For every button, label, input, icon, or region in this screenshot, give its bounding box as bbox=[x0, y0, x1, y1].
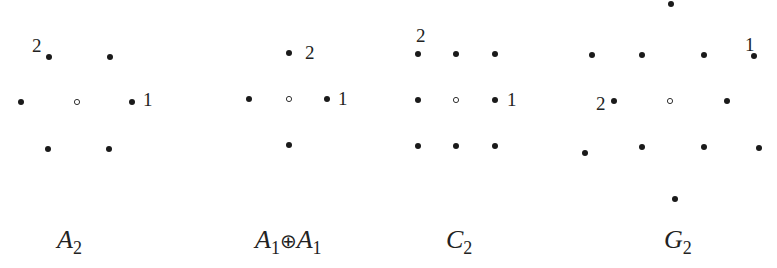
root-point bbox=[492, 97, 498, 103]
diagram-a1-plus-a1: 21A1⊕A1 bbox=[246, 42, 348, 258]
simple-root-label: 2 bbox=[32, 35, 42, 56]
simple-root-label: 1 bbox=[338, 88, 348, 109]
root-point bbox=[639, 52, 645, 58]
diagram-c2: 21C2 bbox=[415, 25, 517, 258]
root-point bbox=[611, 98, 617, 104]
root-point bbox=[582, 150, 588, 156]
simple-root-label: 2 bbox=[596, 93, 606, 114]
root-point bbox=[453, 51, 459, 57]
root-point bbox=[415, 97, 421, 103]
root-point bbox=[106, 146, 112, 152]
root-point bbox=[672, 196, 678, 202]
diagram-caption: A1⊕A1 bbox=[253, 225, 322, 258]
simple-root-label: 2 bbox=[305, 42, 315, 63]
simple-root-label: 1 bbox=[507, 89, 517, 110]
root-point bbox=[453, 143, 459, 149]
root-point bbox=[415, 51, 421, 57]
root-point bbox=[492, 51, 498, 57]
origin-point bbox=[453, 97, 458, 102]
root-point bbox=[701, 52, 707, 58]
root-point bbox=[756, 145, 762, 151]
root-point bbox=[589, 52, 595, 58]
simple-root-label: 1 bbox=[143, 89, 153, 110]
root-point bbox=[107, 54, 113, 60]
root-system-diagrams: 21A2 21A1⊕A1 21C2 21G2 bbox=[0, 0, 777, 268]
root-point bbox=[701, 144, 707, 150]
simple-root-label: 2 bbox=[416, 25, 426, 46]
diagram-a2: 21A2 bbox=[18, 35, 153, 258]
root-point bbox=[246, 96, 252, 102]
root-point bbox=[668, 1, 674, 7]
root-point bbox=[724, 98, 730, 104]
root-point bbox=[129, 99, 135, 105]
origin-point bbox=[74, 99, 79, 104]
root-point bbox=[492, 143, 498, 149]
root-point bbox=[286, 142, 292, 148]
origin-point bbox=[667, 98, 672, 103]
root-point bbox=[415, 143, 421, 149]
diagram-caption: C2 bbox=[446, 225, 472, 258]
root-point bbox=[45, 146, 51, 152]
origin-point bbox=[286, 96, 291, 101]
simple-root-label: 1 bbox=[745, 34, 755, 55]
root-point bbox=[18, 99, 24, 105]
diagram-g2: 21G2 bbox=[582, 1, 762, 258]
root-point bbox=[324, 96, 330, 102]
diagram-caption: A2 bbox=[55, 225, 82, 258]
root-point bbox=[639, 144, 645, 150]
root-point bbox=[46, 54, 52, 60]
root-point bbox=[286, 50, 292, 56]
diagram-caption: G2 bbox=[664, 225, 692, 258]
